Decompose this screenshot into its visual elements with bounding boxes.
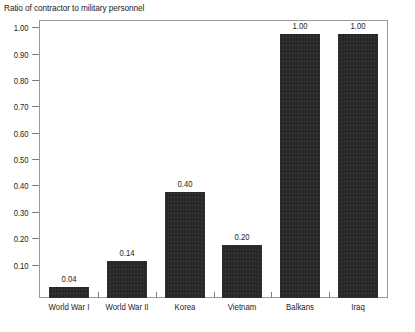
y-axis-tick-mark bbox=[32, 80, 39, 81]
x-axis-tick-label: World War I bbox=[48, 302, 89, 313]
x-axis-tick-mark bbox=[329, 292, 330, 298]
bar-slot: 1.00 bbox=[329, 21, 387, 298]
y-axis-tick: 0.40 bbox=[0, 180, 39, 192]
bars-container: 0.040.140.400.201.001.00 bbox=[40, 21, 387, 298]
x-axis-tick-label: Korea bbox=[174, 302, 195, 313]
y-axis-tick-label: 0.10 bbox=[14, 260, 29, 272]
y-axis-tick-mark bbox=[32, 54, 39, 55]
y-axis-tick-label: 0.90 bbox=[14, 49, 29, 61]
bar-value-label: 0.04 bbox=[61, 274, 76, 285]
x-axis-tick-mark bbox=[98, 292, 99, 298]
y-axis-tick-label: 1.00 bbox=[14, 22, 29, 34]
x-axis-tick-mark bbox=[214, 292, 215, 298]
bar bbox=[107, 261, 147, 298]
y-axis-tick-mark bbox=[32, 133, 39, 134]
y-axis-tick-mark bbox=[32, 27, 39, 28]
x-axis-tick-label: Iraq bbox=[351, 302, 364, 313]
x-axis-tick-label: World War II bbox=[105, 302, 148, 313]
bar-value-label: 1.00 bbox=[293, 21, 308, 32]
bar bbox=[222, 245, 262, 298]
bar-slot: 0.04 bbox=[40, 21, 98, 298]
bar-slot: 0.40 bbox=[156, 21, 214, 298]
bar bbox=[165, 192, 205, 298]
y-axis-tick-mark bbox=[32, 238, 39, 239]
x-axis-tick-label: Vietnam bbox=[228, 302, 257, 313]
y-axis-tick-label: 0.60 bbox=[14, 128, 29, 140]
y-axis-tick: 0.60 bbox=[0, 128, 39, 140]
y-axis-tick-mark bbox=[32, 185, 39, 186]
y-axis-tick: 0.30 bbox=[0, 207, 39, 219]
y-axis-tick-mark bbox=[32, 106, 39, 107]
y-axis-tick: 0.70 bbox=[0, 101, 39, 113]
bar-value-label: 1.00 bbox=[351, 21, 366, 32]
y-axis-tick-mark bbox=[32, 265, 39, 266]
y-axis-tick: 1.00 bbox=[0, 22, 39, 34]
y-axis-tick: 0.50 bbox=[0, 154, 39, 166]
bar bbox=[338, 34, 378, 298]
y-axis-tick-mark bbox=[32, 212, 39, 213]
y-axis-tick-label: 0.30 bbox=[14, 207, 29, 219]
y-axis-tick-label: 0.40 bbox=[14, 180, 29, 192]
bar bbox=[49, 287, 89, 298]
y-axis-tick-label: 0.50 bbox=[14, 154, 29, 166]
bar-value-label: 0.20 bbox=[235, 232, 250, 243]
y-axis-tick-label: 0.70 bbox=[14, 101, 29, 113]
bar bbox=[280, 34, 320, 298]
bar-slot: 1.00 bbox=[271, 21, 329, 298]
bar-value-label: 0.40 bbox=[177, 179, 192, 190]
y-axis: 1.000.900.800.700.600.500.400.300.200.10 bbox=[0, 20, 39, 298]
y-axis-tick-label: 0.80 bbox=[14, 75, 29, 87]
x-axis: World War IWorld War IIKoreaVietnamBalka… bbox=[40, 298, 387, 332]
bar-slot: 0.14 bbox=[98, 21, 156, 298]
chart-title: Ratio of contractor to military personne… bbox=[4, 2, 144, 14]
y-axis-tick: 0.90 bbox=[0, 49, 39, 61]
y-axis-tick-mark bbox=[32, 159, 39, 160]
bar-slot: 0.20 bbox=[214, 21, 272, 298]
bar-chart-figure: Ratio of contractor to military personne… bbox=[0, 0, 415, 332]
x-axis-tick-mark bbox=[156, 292, 157, 298]
y-axis-tick: 0.20 bbox=[0, 233, 39, 245]
y-axis-tick: 0.80 bbox=[0, 75, 39, 87]
bar-value-label: 0.14 bbox=[119, 248, 134, 259]
y-axis-tick: 0.10 bbox=[0, 260, 39, 272]
y-axis-tick-label: 0.20 bbox=[14, 233, 29, 245]
x-axis-tick-mark bbox=[271, 292, 272, 298]
x-axis-tick-label: Balkans bbox=[286, 302, 314, 313]
